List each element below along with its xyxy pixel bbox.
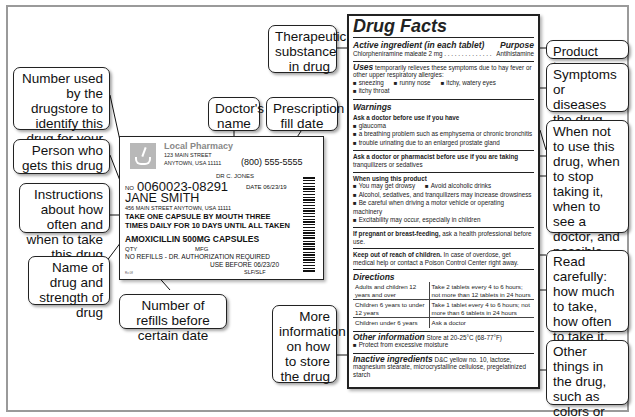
- directions-section: Directions Adults and children 12 years …: [353, 270, 534, 331]
- use-item: runny nose: [394, 79, 431, 88]
- callout-refills: Number of refills before certain date: [119, 294, 227, 329]
- refills-info: NO REFILLS - DR. AUTHORIZATION REQUIRED: [125, 253, 270, 260]
- pharmacist-initials: SLF/SLF: [244, 269, 266, 275]
- table-row: Children under 6 yearsAsk a doctor: [353, 318, 534, 328]
- ask-doctor: Ask a doctor before use if you have: [353, 114, 534, 122]
- active-ingredient-section: Active ingredient (in each tablet) Purpo…: [353, 38, 534, 62]
- callout-fill-date: Prescription fill date: [266, 97, 338, 131]
- inactive-header: Inactive ingredients: [353, 354, 433, 364]
- keep-out-bold: Keep out of reach of children.: [353, 251, 442, 258]
- other-info-header: Other information: [353, 332, 425, 342]
- directions-table: Adults and children 12 years and overTak…: [353, 282, 534, 327]
- ask-pharmacist-text: tranquilizers or sedatives: [353, 161, 534, 169]
- callout-warnings: When not to use this drug, when to stop …: [546, 120, 629, 233]
- callout-person: Person who gets this drug: [13, 139, 110, 174]
- callout-product-type: Product type: [546, 40, 629, 59]
- when-using-item: Be careful when driving a motor vehicle …: [353, 199, 534, 215]
- pharmacy-address-2: ANYTOWN, USA 11111: [164, 160, 221, 166]
- patient-address: 456 MAIN STREET ANYTOWN, USA 11111: [125, 205, 231, 211]
- callout-doctor: Doctor's name: [208, 97, 260, 131]
- prescription-label: Local Pharmacy 123 MAIN STREET ANYTOWN, …: [119, 136, 324, 280]
- uses-section: Uses temporarily relieves these symptoms…: [353, 62, 534, 100]
- when-using-item: Excitability may occur, especially in ch…: [353, 216, 534, 225]
- drug-facts-title: Drug Facts: [353, 16, 534, 38]
- callout-directions: Read carefully: how much to take, how of…: [546, 250, 629, 332]
- callout-name-strength: Name of drug and strength of drug: [28, 256, 110, 305]
- dosage-instructions: TAKE ONE CAPSULE BY MOUTH THREE TIMES DA…: [125, 212, 290, 230]
- warning-item: trouble urinating due to an enlarged pro…: [353, 139, 534, 148]
- warning-item: glaucoma: [353, 122, 534, 131]
- other-info-text: Store at 20-25°C (68-77°F): [425, 334, 502, 341]
- uses-header: Uses: [353, 62, 373, 72]
- pharmacy-address-1: 123 MAIN STREET: [164, 152, 212, 158]
- drug-facts-panel: Drug Facts Active ingredient (in each ta…: [347, 14, 540, 389]
- when-using-item: You may get drowsy: [353, 182, 415, 191]
- other-info-section: Other information Store at 20-25°C (68-7…: [353, 332, 534, 354]
- callout-rx-number: Number used by the drugstore to identify…: [13, 67, 110, 130]
- table-row: Children 6 years to under 12 yearsTake 1…: [353, 300, 534, 318]
- use-before-date: USE BEFORE 06/23/20: [210, 261, 279, 268]
- when-using-item: Avoid alcoholic drinks: [425, 182, 491, 191]
- warnings-header: Warnings: [353, 102, 534, 112]
- inactive-ingredients-section: Inactive ingredients D&C yellow no. 10, …: [353, 354, 534, 381]
- purpose: Antihistamine: [496, 50, 534, 58]
- pregnant-bold: If pregnant or breast-feeding,: [353, 230, 440, 237]
- use-item: itchy, watery eyes: [441, 79, 496, 88]
- directions-header: Directions: [353, 272, 534, 282]
- callout-symptoms: Symptoms or diseases the drug treats: [546, 63, 629, 112]
- active-ingredient-header: Active ingredient (in each tablet): [353, 40, 484, 50]
- quantity-label: QTY: [125, 246, 137, 252]
- uses-text: temporarily relieves these symptoms due …: [353, 64, 532, 79]
- table-row: Adults and children 12 years and overTak…: [353, 282, 534, 299]
- label-code: Rx 0ff: [125, 271, 133, 275]
- when-using: When using this product: [353, 175, 534, 183]
- drug-name-strength: AMOXICILLIN 500MG CAPSULES: [125, 234, 259, 244]
- manufacturer-label: MFG: [195, 246, 208, 252]
- when-using-item: Alcohol, sedatives, and tranquilizers ma…: [353, 191, 534, 200]
- callout-storage: More information on how to store the dru…: [272, 305, 337, 383]
- callout-inactive: Other things in the drug, such as colors…: [546, 340, 629, 405]
- patient-name: JANE SMITH: [125, 191, 199, 205]
- use-item: itchy throat: [353, 87, 534, 96]
- other-info-item: Protect from excessive moisture: [353, 341, 534, 350]
- callout-instructions: Instructions about how often and when to…: [19, 183, 110, 233]
- pharmacy-logo-icon: [130, 143, 156, 169]
- instructions-line-1: TAKE ONE CAPSULE BY MOUTH THREE: [125, 212, 290, 221]
- instructions-line-2: TIMES DAILY FOR 10 DAYS UNTIL ALL TAKEN: [125, 221, 290, 230]
- ask-pharmacist: Ask a doctor or pharmacist before use if…: [353, 153, 534, 161]
- fill-date: DATE 06/23/19: [246, 184, 287, 190]
- pharmacy-phone: (800) 555-5555: [241, 157, 303, 167]
- barcode-icon: [303, 177, 315, 273]
- active-ingredient: Chlorpheniramine maleate 2 mg . . . . . …: [353, 50, 492, 58]
- pharmacy-name: Local Pharmacy: [164, 141, 233, 151]
- use-item: sneezing: [353, 79, 384, 88]
- warnings-section: Warnings Ask a doctor before use if you …: [353, 100, 534, 271]
- warning-item: a breathing problem such as emphysema or…: [353, 130, 534, 139]
- callout-therapeutic: Therapeutic substance in drug: [268, 25, 337, 73]
- purpose-header: Purpose: [500, 40, 534, 50]
